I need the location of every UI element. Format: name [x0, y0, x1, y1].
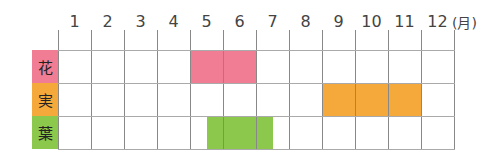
tick-mark [223, 30, 224, 50]
month-label: 9 [322, 12, 355, 31]
grid-vline [58, 50, 59, 150]
grid-vline [355, 50, 356, 150]
grid-vline [322, 50, 323, 150]
month-label: 11 [388, 12, 421, 31]
grid-hline [58, 149, 455, 150]
tick-mark [91, 30, 92, 50]
month-label: 2 [91, 12, 124, 31]
grid-vline [421, 50, 422, 150]
grid-vline [223, 50, 224, 150]
month-label: 4 [157, 12, 190, 31]
month-label: 1 [58, 12, 91, 31]
bar-2 [207, 116, 273, 149]
tick-mark [58, 30, 59, 50]
month-label: 6 [223, 12, 256, 31]
grid-vline [454, 50, 455, 150]
month-label: 12 [421, 12, 454, 31]
row-label: 実 [32, 83, 58, 116]
bar-1 [322, 83, 421, 116]
grid-vline [388, 50, 389, 150]
month-label: 10 [355, 12, 388, 31]
grid-hline [58, 83, 455, 84]
unit-label: (月) [452, 12, 477, 32]
row-label: 花 [32, 50, 58, 83]
grid-vline [91, 50, 92, 150]
tick-mark [289, 30, 290, 50]
grid-vline [289, 50, 290, 150]
tick-mark [256, 30, 257, 50]
tick-mark [157, 30, 158, 50]
tick-mark [355, 30, 356, 50]
grid-vline [190, 50, 191, 150]
month-label: 8 [289, 12, 322, 31]
month-label: 5 [190, 12, 223, 31]
tick-mark [322, 30, 323, 50]
grid-hline [58, 50, 455, 51]
tick-mark [124, 30, 125, 50]
tick-mark [190, 30, 191, 50]
row-label: 葉 [32, 116, 58, 149]
tick-mark [388, 30, 389, 50]
tick-mark [421, 30, 422, 50]
grid-vline [157, 50, 158, 150]
grid-vline [256, 50, 257, 150]
grid-hline [58, 116, 455, 117]
month-label: 3 [124, 12, 157, 31]
grid-vline [124, 50, 125, 150]
month-label: 7 [256, 12, 289, 31]
tick-mark [454, 30, 455, 50]
